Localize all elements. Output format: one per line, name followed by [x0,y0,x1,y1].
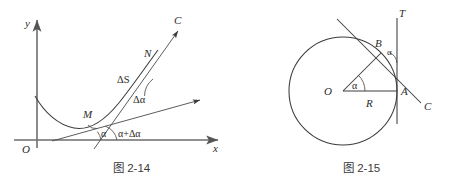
central-angle-arc [359,76,365,92]
curve-c-label: C [174,14,182,26]
line-c-label: C [424,100,432,112]
angle-arc-alpha-plus-delta [106,126,118,140]
alpha-plus-delta-label: α+Δα [118,128,141,139]
figure-canvas: y x O M N C ΔS Δα α α+Δα 图 2-14 [0,0,465,188]
alpha-angle-label: α [101,128,107,139]
x-axis-label: x [212,142,218,154]
tangent-t-label: T [399,7,406,19]
arc-length-label: ΔS [117,74,130,85]
point-n-label: N [143,47,152,59]
y-axis-label: y [24,17,30,29]
alpha-at-b-label: α [387,47,392,57]
center-o-label: O [324,85,332,97]
figures-drawing: y x O M N C ΔS Δα α α+Δα 图 2-14 [0,0,465,188]
figure-2-14-caption: 图 2-14 [113,162,151,174]
line-to-c [337,19,421,103]
figure-2-15-group: O R A B T C α α 图 2-15 [289,7,432,174]
radius-to-b [343,53,381,91]
origin-label: O [22,143,30,155]
figure-2-15-caption: 图 2-15 [343,162,380,174]
central-alpha-label: α [352,80,358,91]
figure-2-14-group: y x O M N C ΔS Δα α α+Δα 图 2-14 [14,14,218,174]
point-b-label: B [375,37,382,49]
radius-label: R [365,97,373,109]
delta-alpha-label: Δα [133,94,146,105]
point-a-label: A [400,85,408,97]
point-m-label: M [82,108,93,120]
angle-arc-delta-alpha [145,79,154,96]
